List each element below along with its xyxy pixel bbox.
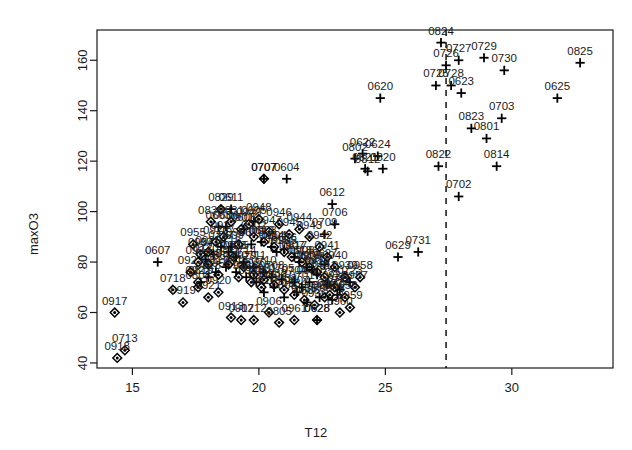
point-label: 0703	[489, 100, 515, 112]
point-label: 0962	[317, 277, 343, 289]
plus-marker	[434, 162, 443, 171]
point-label: 0829	[208, 191, 234, 203]
point-label: 0919	[170, 284, 196, 296]
scatter-plot-figure: 4060801001201401601520253006040612062006…	[0, 0, 632, 450]
plot-canvas: 4060801001201401601520253006040612062006…	[0, 0, 632, 450]
point-label: 0730	[491, 52, 517, 64]
filled-diamond-marker	[110, 308, 119, 317]
x-tick-label: 20	[252, 380, 266, 395]
point-label: 0821	[352, 151, 378, 163]
point-label: 0814	[484, 148, 510, 160]
filled-diamond-marker	[335, 308, 344, 317]
plus-marker	[553, 94, 562, 103]
point-label: 0949	[236, 206, 262, 218]
point-label: 0712	[241, 302, 267, 314]
filled-diamond-marker	[113, 354, 122, 363]
diamond-center-dot	[230, 316, 233, 319]
y-axis-title: maxO3	[26, 213, 41, 255]
point-label: 0961	[281, 302, 307, 314]
point-label: 0921	[195, 279, 221, 291]
plus-marker	[436, 38, 445, 47]
diamond-center-dot	[252, 319, 255, 322]
point-label: 0707	[251, 161, 277, 173]
diamond-center-dot	[278, 321, 281, 324]
point-label: 0607	[145, 244, 171, 256]
plus-marker	[378, 164, 387, 173]
plus-marker	[576, 58, 585, 67]
filled-diamond-marker	[227, 313, 236, 322]
point-label: 0727	[446, 42, 472, 54]
point-label: 0731	[405, 234, 431, 246]
point-label: 0913	[218, 300, 244, 312]
diamond-center-dot	[262, 177, 265, 180]
point-label: 0824	[428, 25, 454, 37]
plus-marker	[454, 192, 463, 201]
plus-marker	[479, 53, 488, 62]
diamond-center-dot	[116, 356, 119, 359]
x-axis-title: T12	[0, 425, 632, 440]
point-label: 0823	[459, 110, 485, 122]
plus-marker	[282, 174, 291, 183]
point-label: 0950	[226, 226, 252, 238]
point-label: 0628	[304, 302, 330, 314]
plus-marker	[393, 252, 402, 261]
x-tick-label: 15	[125, 380, 139, 395]
point-label: 0728	[438, 67, 464, 79]
y-tick-label: 140	[76, 100, 91, 122]
point-labels-layer: 0604061206200622062306240625062907020703…	[102, 25, 593, 352]
plus-marker	[431, 81, 440, 90]
point-label: 0604	[274, 161, 300, 173]
plus-marker	[482, 134, 491, 143]
x-tick-label: 30	[505, 380, 519, 395]
x-tick-label: 25	[378, 380, 392, 395]
diamond-center-dot	[113, 311, 116, 314]
diamond-center-dot	[240, 319, 243, 322]
y-tick-label: 40	[76, 356, 91, 370]
point-label: 0822	[426, 148, 452, 160]
point-label: 0713	[112, 332, 138, 344]
y-tick-label: 100	[76, 201, 91, 223]
filled-diamond-marker	[204, 293, 213, 302]
y-tick-label: 60	[76, 305, 91, 319]
point-label: 0625	[545, 80, 571, 92]
point-label: 0624	[365, 138, 391, 150]
point-label: 0612	[319, 186, 345, 198]
plus-marker	[376, 94, 385, 103]
point-label: 0958	[347, 259, 373, 271]
point-label: 0702	[446, 178, 472, 190]
point-label: 0729	[471, 40, 497, 52]
plus-marker	[153, 257, 162, 266]
plus-marker	[457, 88, 466, 97]
plus-marker	[500, 66, 509, 75]
filled-diamond-marker	[237, 316, 246, 325]
data-points-layer	[110, 38, 584, 362]
filled-diamond-marker	[249, 316, 258, 325]
plus-marker	[414, 247, 423, 256]
point-label: 0917	[102, 295, 128, 307]
diamond-center-dot	[207, 296, 210, 299]
point-label: 0960	[327, 295, 353, 307]
point-label: 0620	[367, 80, 393, 92]
point-label: 0955	[180, 226, 206, 238]
point-label: 0825	[567, 45, 593, 57]
filled-diamond-marker	[179, 298, 188, 307]
filled-diamond-marker	[290, 316, 299, 325]
point-label: 0718	[160, 272, 186, 284]
filled-diamond-marker	[275, 318, 284, 327]
y-axis-title-wrapper: maxO3	[26, 255, 146, 275]
y-tick-label: 160	[76, 49, 91, 71]
plus-marker	[492, 162, 501, 171]
plot-frame	[97, 30, 613, 368]
diamond-center-dot	[316, 319, 319, 322]
diamond-center-dot	[293, 319, 296, 322]
diamond-center-dot	[338, 311, 341, 314]
y-tick-label: 120	[76, 150, 91, 172]
diamond-center-dot	[182, 301, 185, 304]
